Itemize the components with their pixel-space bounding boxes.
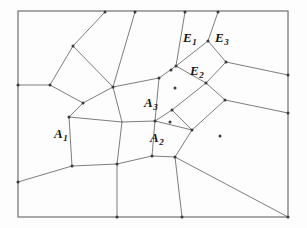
graph-vertex	[17, 181, 20, 184]
graph-vertex	[287, 74, 290, 77]
cell-edge	[83, 87, 113, 103]
cell-label-base: E	[215, 30, 224, 45]
graph-vertex	[219, 135, 222, 138]
graph-vertex	[158, 77, 161, 80]
vertex-layer	[17, 11, 290, 219]
cell-edge	[69, 117, 72, 166]
cell-label-subscript: 3	[224, 37, 229, 47]
graph-vertex	[217, 11, 220, 14]
graph-vertex	[224, 99, 227, 102]
cell-edge	[122, 121, 155, 122]
graph-vertex	[112, 86, 115, 89]
voronoi-figure: A1A2A3E1E2E3	[0, 0, 307, 228]
cell-edge	[226, 62, 288, 75]
graph-vertex	[174, 87, 177, 90]
graph-vertex	[116, 163, 119, 166]
cell-edge	[175, 157, 288, 217]
cell-label-a2: A2	[150, 129, 163, 145]
cell-label-subscript: 1	[63, 133, 68, 143]
graph-vertex	[151, 155, 154, 158]
cell-edge-layer	[18, 12, 288, 217]
voronoi-diagram-svg	[0, 0, 307, 228]
graph-vertex	[287, 112, 290, 115]
cell-label-base: A	[150, 130, 159, 145]
graph-vertex	[181, 216, 184, 219]
graph-vertex	[49, 84, 52, 87]
cell-edge	[50, 46, 73, 85]
cell-label-e3: E3	[215, 29, 228, 45]
cell-edge	[172, 110, 192, 130]
cell-edge	[206, 62, 226, 83]
cell-label-e1: E1	[183, 29, 196, 45]
graph-vertex	[170, 69, 173, 72]
cell-edge	[172, 83, 206, 110]
cell-label-base: E	[183, 30, 192, 45]
cell-edge	[192, 100, 225, 130]
cell-label-e2: E2	[190, 62, 203, 78]
cell-label-subscript: 3	[153, 102, 158, 112]
cell-label-subscript: 1	[192, 37, 197, 47]
graph-vertex	[134, 11, 137, 14]
cell-label-a3: A3	[144, 94, 157, 110]
cell-edge	[175, 130, 192, 157]
frame-border	[18, 11, 288, 217]
graph-vertex	[205, 82, 208, 85]
graph-vertex	[207, 40, 210, 43]
graph-vertex	[225, 61, 228, 64]
cell-edge	[73, 12, 105, 46]
cell-edge	[117, 122, 122, 164]
graph-vertex	[82, 102, 85, 105]
cell-label-subscript: 2	[159, 137, 164, 147]
cell-edge	[117, 156, 152, 164]
cell-edge	[50, 85, 83, 103]
cell-edge	[69, 117, 122, 122]
graph-vertex	[71, 165, 74, 168]
cell-edge	[225, 100, 288, 113]
graph-vertex	[175, 65, 178, 68]
graph-vertex	[72, 45, 75, 48]
cell-label-base: A	[54, 126, 63, 141]
graph-vertex	[116, 216, 119, 219]
cell-edge	[72, 164, 117, 166]
cell-edge	[159, 66, 176, 78]
cell-label-base: A	[144, 95, 153, 110]
graph-vertex	[154, 120, 157, 123]
cell-edge	[18, 166, 72, 182]
cell-edge	[73, 46, 113, 87]
diagram-frame	[18, 11, 288, 217]
cell-label-base: E	[190, 63, 199, 78]
cell-label-subscript: 2	[199, 70, 204, 80]
graph-vertex	[104, 11, 107, 14]
graph-vertex	[184, 11, 187, 14]
graph-vertex	[171, 109, 174, 112]
cell-edge	[175, 157, 182, 217]
cell-edge	[69, 103, 83, 117]
cell-edge	[113, 87, 122, 122]
cell-label-a1: A1	[54, 125, 67, 141]
graph-vertex	[174, 156, 177, 159]
graph-vertex	[17, 84, 20, 87]
cell-edge	[113, 12, 135, 87]
graph-vertex	[169, 121, 172, 124]
graph-vertex	[68, 116, 71, 119]
cell-edge	[113, 78, 159, 87]
graph-vertex	[287, 216, 290, 219]
cell-edge	[152, 156, 175, 157]
cell-edge	[206, 83, 225, 100]
graph-vertex	[191, 129, 194, 132]
